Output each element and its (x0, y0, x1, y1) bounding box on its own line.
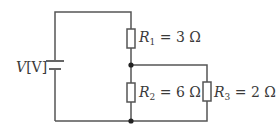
r3-sub: 3 (225, 92, 231, 102)
junction-node-top (128, 62, 133, 67)
r3-name: R (214, 84, 225, 100)
r1-value: = 3 Ω (160, 29, 201, 45)
resistor-r3 (203, 82, 211, 101)
r3-value: = 2 Ω (235, 84, 276, 100)
source-symbol: V (16, 59, 26, 75)
r2-sub: 2 (150, 92, 156, 102)
source-label: V[V] (16, 60, 47, 74)
r1-sub: 1 (150, 37, 156, 47)
r2-label: R2 = 6 Ω (139, 85, 201, 102)
wire-r3-top (131, 65, 207, 82)
resistor-r2 (127, 83, 135, 102)
resistor-r1 (127, 29, 135, 48)
r3-label: R3 = 2 Ω (214, 85, 276, 102)
r2-name: R (139, 84, 150, 100)
source-unit: [V] (26, 59, 47, 75)
r2-value: = 6 Ω (160, 84, 201, 100)
junction-node-bottom (128, 118, 133, 123)
r1-label: R1 = 3 Ω (139, 30, 201, 47)
r1-name: R (139, 29, 150, 45)
wire-left-top (55, 12, 131, 60)
